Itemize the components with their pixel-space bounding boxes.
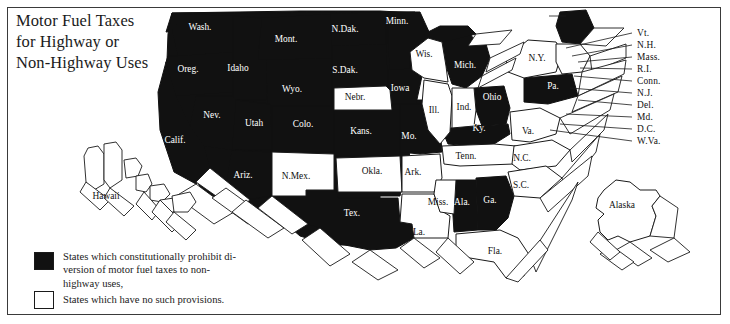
- legend-label-no-provision: States which have no such provisions.: [63, 293, 323, 306]
- legend-prohibit-line-3: highway uses,: [63, 277, 249, 290]
- state-label-iowa: Iowa: [391, 83, 411, 93]
- legend-swatch-no-provision: [34, 291, 54, 309]
- state-label-florida: Fla.: [488, 246, 502, 256]
- state-label-tennessee: Tenn.: [456, 151, 477, 161]
- state-label-wyoming: Wyo.: [282, 84, 302, 94]
- legend-prohibit-line-2: version of motor fuel taxes to non-: [63, 263, 249, 276]
- alaska-shapes: [590, 180, 690, 270]
- title-line-2: for Highway or: [16, 31, 176, 52]
- state-label-california: Calif.: [164, 135, 185, 145]
- leader-label-connecticut: Conn.: [637, 76, 661, 86]
- state-label-alaska: Alaska: [609, 200, 636, 210]
- state-label-missouri: Mo.: [401, 131, 416, 141]
- state-label-north-dakota: N.Dak.: [331, 24, 358, 34]
- state-label-virginia: Va.: [522, 126, 534, 136]
- leader-label-new-hampshire: N.H.: [637, 40, 656, 50]
- legend-prohibit-line-1: States which constitutionally prohibit d…: [63, 250, 249, 263]
- state-label-minnesota: Minn.: [386, 16, 409, 26]
- leader-label-district-of-columbia: D.C.: [637, 124, 656, 134]
- leader-label-delaware: Del.: [637, 100, 654, 110]
- state-label-michigan: Mich.: [454, 60, 476, 70]
- state-label-idaho: Idaho: [227, 63, 249, 73]
- page-title: Motor Fuel Taxes for Highway or Non-High…: [16, 10, 176, 73]
- state-label-indiana: Ind.: [457, 102, 472, 112]
- state-label-oregon: Oreg.: [177, 64, 198, 74]
- state-label-hawaii: Hawaii: [92, 191, 119, 201]
- state-label-nevada: Nev.: [203, 110, 220, 120]
- state-label-montana: Mont.: [275, 34, 298, 44]
- state-label-louisiana: La.: [413, 227, 425, 237]
- state-label-new-mexico: N.Mex.: [282, 171, 311, 181]
- state-label-south-dakota: S.Dak.: [332, 65, 358, 75]
- legend-swatch-prohibit: [34, 252, 54, 270]
- state-label-kansas: Kans.: [350, 126, 372, 136]
- state-label-north-carolina: N.C.: [513, 153, 531, 163]
- leader-label-vermont: Vt.: [637, 28, 649, 38]
- leader-label-west-virginia: W.Va.: [637, 136, 661, 146]
- state-label-illinois: Ill.: [429, 105, 440, 115]
- title-line-1: Motor Fuel Taxes: [16, 10, 176, 31]
- title-line-3: Non-Highway Uses: [16, 52, 176, 73]
- state-label-nebraska: Nebr.: [345, 92, 366, 102]
- leader-label-maryland: Md.: [637, 112, 653, 122]
- leader-label-massachusetts: Mass.: [637, 52, 660, 62]
- state-label-ohio: Ohio: [483, 92, 502, 102]
- state-label-texas: Tex.: [344, 208, 360, 218]
- state-label-south-carolina: S.C.: [513, 180, 529, 190]
- leader-label-new-jersey: N.J.: [637, 88, 653, 98]
- state-label-mississippi: Miss.: [428, 197, 449, 207]
- leader-label-rhode-island: R.I.: [637, 64, 652, 74]
- state-label-new-york: N.Y.: [528, 53, 545, 63]
- state-label-arizona: Ariz.: [233, 170, 252, 180]
- state-label-oklahoma: Okla.: [362, 166, 383, 176]
- state-label-arkansas: Ark.: [405, 167, 422, 177]
- state-label-alabama: Ala.: [454, 197, 470, 207]
- state-label-wisconsin: Wis.: [415, 49, 432, 59]
- state-label-pennsylvania: Pa.: [547, 81, 559, 91]
- map-page: .blk{fill:#111111;stroke:#111111;stroke-…: [0, 0, 730, 324]
- state-label-utah: Utah: [245, 118, 264, 128]
- state-label-maine: Maine: [515, 8, 539, 18]
- state-label-georgia: Ga.: [483, 195, 496, 205]
- state-label-kentucky: Ky.: [472, 123, 485, 133]
- legend-label-prohibit: States which constitutionally prohibit d…: [63, 250, 249, 290]
- state-label-colorado: Colo.: [293, 119, 314, 129]
- state-label-washington: Wash.: [189, 22, 212, 32]
